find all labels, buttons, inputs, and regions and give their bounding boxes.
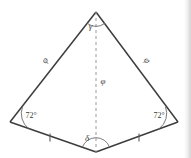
edge-right-bottom (96, 122, 178, 152)
right-side-label: φ (142, 55, 153, 65)
edge-left-bottom (10, 122, 96, 152)
edge-apex-left (10, 12, 96, 122)
geometry-figure: γ φ φ φ 72° 72° δ (0, 0, 191, 158)
bottom-angle-label: δ (85, 133, 90, 143)
kite-diagram-svg: γ φ φ φ 72° 72° δ (0, 0, 191, 158)
left-base-angle-label: 72° (25, 111, 36, 120)
apex-angle-label: γ (89, 21, 93, 31)
right-base-angle-label: 72° (153, 111, 164, 120)
center-segment-label: φ (101, 76, 106, 86)
left-side-label: φ (39, 55, 50, 65)
edge-apex-right (96, 12, 178, 122)
